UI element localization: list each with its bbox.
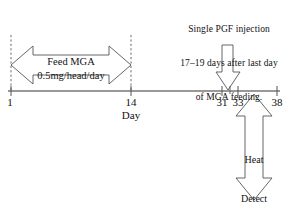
- axis-title-day: Day: [122, 109, 140, 122]
- axis-tick-label-14: 14: [126, 96, 137, 109]
- heat-detect-breed-label: Heat Detect & Breed: [241, 127, 267, 205]
- axis-tick-label-31: 31: [217, 96, 228, 109]
- feed-mga-label: Feed MGA: [47, 56, 95, 68]
- pgf-note-line-1: Single PGF injection: [180, 24, 277, 35]
- pgf-note-line-3: of MGA feeding.: [180, 92, 277, 103]
- timeline-diagram: Single PGF injection 17–19 days after la…: [0, 0, 292, 205]
- breed-line-1: Heat: [241, 153, 267, 166]
- feed-mga-dose-label: 0.5mg/head/day: [37, 70, 104, 82]
- axis-tick-label-38: 38: [272, 96, 283, 109]
- breed-line-2: Detect: [241, 192, 267, 205]
- pgf-note-line-2: 17–19 days after last day: [180, 58, 277, 69]
- axis-tick-label-33: 33: [233, 96, 244, 109]
- pgf-injection-note: Single PGF injection 17–19 days after la…: [180, 2, 277, 125]
- axis-tick-label-1: 1: [7, 96, 13, 109]
